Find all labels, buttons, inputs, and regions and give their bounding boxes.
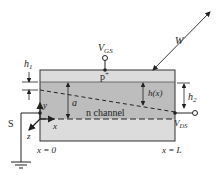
- vgs-label: VGS: [98, 42, 113, 55]
- vds-label: VDS: [174, 118, 188, 129]
- source-label: S: [8, 118, 14, 129]
- n-channel-label: n channel: [86, 107, 125, 118]
- z-axis-label: z: [26, 131, 31, 141]
- w-label: W: [175, 35, 185, 46]
- h1-label: h1: [24, 58, 33, 71]
- z-axis-arrow: [29, 119, 40, 130]
- x-L-label: x = L: [161, 145, 182, 155]
- bottom-layer: [40, 119, 175, 141]
- y-axis-label: y: [42, 100, 47, 110]
- a-label: a: [72, 97, 77, 108]
- jfet-diagram: VGS W p+ h1 a h(x) h2 n channel VDS S y …: [0, 0, 217, 179]
- hx-label: h(x): [148, 88, 163, 98]
- x-zero-label: x = 0: [36, 145, 57, 155]
- x-axis-label: x: [52, 121, 57, 131]
- vds-terminal: [193, 111, 198, 116]
- ground-icon: [11, 162, 31, 168]
- h2-label: h2: [188, 91, 197, 104]
- vgs-terminal: [103, 56, 108, 61]
